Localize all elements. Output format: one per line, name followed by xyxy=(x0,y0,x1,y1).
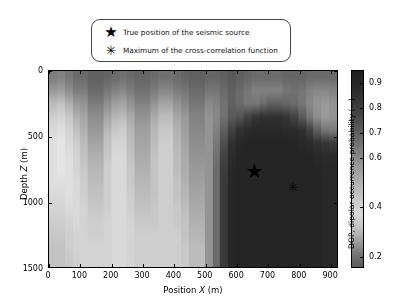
x-axis-tick-label: 700 xyxy=(260,271,275,280)
x-axis-tick-label: 500 xyxy=(197,271,212,280)
x-axis-label-prefix: Position xyxy=(163,285,199,295)
x-axis-tick xyxy=(174,71,175,74)
colorbar-tick xyxy=(360,158,363,159)
x-axis-tick xyxy=(143,71,144,74)
x-axis-tick xyxy=(268,264,269,267)
colorbar-tick xyxy=(360,257,363,258)
colorbar-tick-label: 0.9 xyxy=(369,78,382,87)
x-axis-tick xyxy=(268,71,269,74)
legend-box: ★ True position of the seismic source ✳ … xyxy=(91,19,291,62)
x-axis-tick xyxy=(206,71,207,74)
colorbar-tick-label: 0.7 xyxy=(369,127,382,136)
y-axis-tick xyxy=(49,71,52,72)
x-axis-tick-label: 0 xyxy=(45,271,50,280)
x-axis-tick xyxy=(80,264,81,267)
x-axis-label-suffix: (m) xyxy=(205,285,223,295)
y-axis-tick-label: 0 xyxy=(0,66,43,75)
x-axis-tick-label: 800 xyxy=(291,271,306,280)
x-axis-tick-label: 200 xyxy=(103,271,118,280)
y-axis-tick xyxy=(334,137,337,138)
x-axis-tick xyxy=(300,71,301,74)
y-axis-label-suffix: (m) xyxy=(19,148,29,166)
y-axis-tick xyxy=(49,137,52,138)
x-axis-tick xyxy=(49,264,50,267)
x-axis-tick xyxy=(112,264,113,267)
y-axis-tick xyxy=(334,203,337,204)
x-axis-tick-label: 400 xyxy=(166,271,181,280)
colorbar-tick xyxy=(360,108,363,109)
x-axis-tick xyxy=(143,264,144,267)
colorbar-label: DOP, dipolar occurrence probability (—) xyxy=(347,89,356,259)
x-axis-tick-label: 100 xyxy=(72,271,87,280)
y-axis-tick-label: 500 xyxy=(0,132,43,141)
star-icon: ★ xyxy=(99,25,123,40)
x-axis-label: Position X (m) xyxy=(48,285,338,295)
x-axis-tick-label: 300 xyxy=(134,271,149,280)
y-axis-tick xyxy=(49,203,52,204)
asterisk-icon: ✳ xyxy=(99,44,123,57)
y-axis-tick-label: 1000 xyxy=(0,198,43,207)
colorbar-tick xyxy=(360,133,363,134)
x-axis-tick xyxy=(206,264,207,267)
colorbar-tick xyxy=(360,207,363,208)
y-axis-tick-label: 1500 xyxy=(0,264,43,273)
x-axis-tick xyxy=(300,264,301,267)
x-axis-tick xyxy=(174,264,175,267)
x-axis-tick xyxy=(237,264,238,267)
dop-heatmap-canvas xyxy=(49,71,337,267)
y-axis-label: Depth Z (m) xyxy=(19,104,29,244)
legend-item-true-source: ★ True position of the seismic source xyxy=(99,23,285,41)
colorbar-tick-label: 0.2 xyxy=(369,251,382,260)
seismic-dop-figure: ★ True position of the seismic source ✳ … xyxy=(0,0,394,308)
colorbar-tick-label: 0.6 xyxy=(369,152,382,161)
x-axis-tick-label: 600 xyxy=(228,271,243,280)
legend-item-xcorr-max: ✳ Maximum of the cross-correlation funct… xyxy=(99,41,285,59)
colorbar-tick xyxy=(360,83,363,84)
heatmap-plot-area: ★✳ xyxy=(48,70,338,268)
legend-label-true-source: True position of the seismic source xyxy=(123,28,250,37)
y-axis-label-prefix: Depth xyxy=(19,171,29,200)
x-axis-tick xyxy=(331,264,332,267)
x-axis-tick xyxy=(80,71,81,74)
x-axis-tick-label: 900 xyxy=(323,271,338,280)
x-axis-tick xyxy=(331,71,332,74)
y-axis-tick xyxy=(334,71,337,72)
legend-label-xcorr-max: Maximum of the cross-correlation functio… xyxy=(123,46,278,55)
x-axis-tick xyxy=(237,71,238,74)
colorbar-tick-label: 0.8 xyxy=(369,103,382,112)
colorbar-tick-label: 0.4 xyxy=(369,202,382,211)
y-axis-label-var: Z xyxy=(19,166,29,172)
x-axis-tick xyxy=(112,71,113,74)
